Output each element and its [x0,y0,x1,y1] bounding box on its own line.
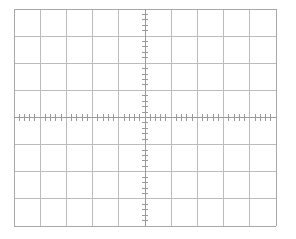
graticule-canvas [0,0,296,239]
screenshot-root [0,0,296,239]
graticule-figure [0,0,296,239]
